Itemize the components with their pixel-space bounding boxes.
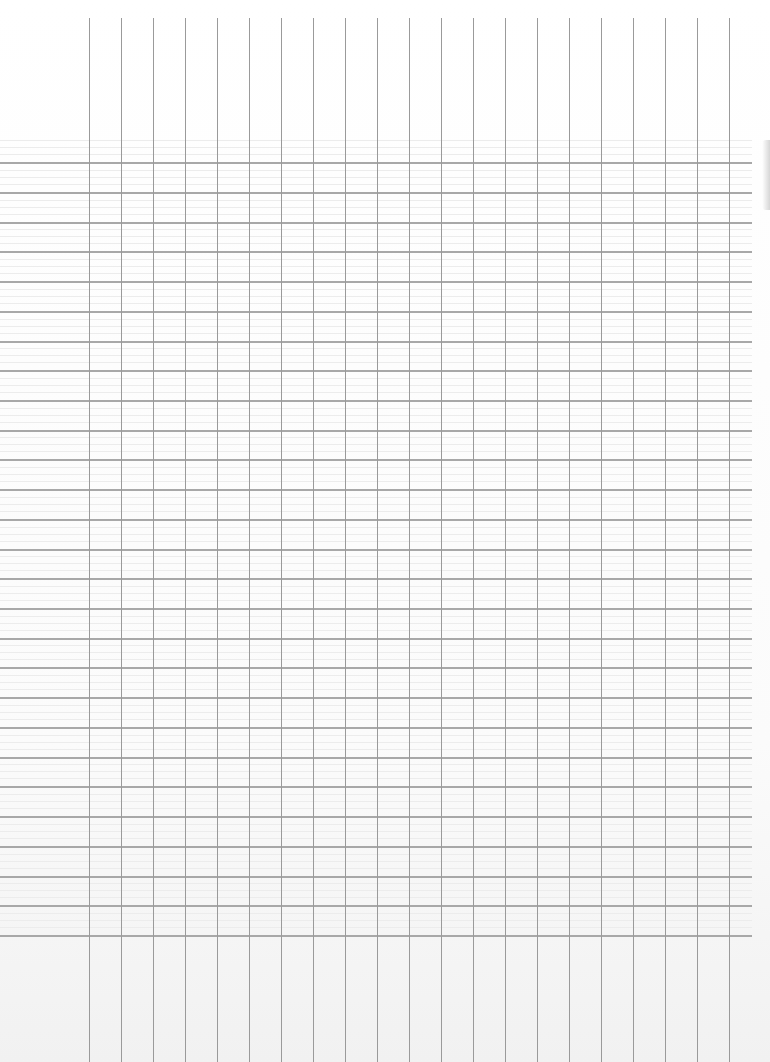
column-rule: [345, 18, 346, 1062]
faint-rule: [0, 319, 752, 320]
row-rule: [0, 846, 752, 848]
faint-rule: [0, 563, 752, 564]
row-rule: [0, 341, 752, 343]
faint-rule: [0, 705, 752, 706]
faint-rule: [0, 207, 752, 208]
column-rule: [313, 18, 314, 1062]
faint-rule: [0, 593, 752, 594]
faint-rule: [0, 556, 752, 557]
faint-rule: [0, 481, 752, 482]
row-rule: [0, 162, 752, 164]
faint-rule: [0, 289, 752, 290]
ledger-sheet: [0, 0, 770, 1062]
faint-rule: [0, 177, 752, 178]
row-rule: [0, 667, 752, 669]
faint-rule: [0, 794, 752, 795]
faint-rule: [0, 170, 752, 171]
faint-rule: [0, 243, 752, 244]
faint-rule: [0, 362, 752, 363]
faint-rule: [0, 200, 752, 201]
column-rule: [505, 18, 506, 1062]
column-rule: [633, 18, 634, 1062]
ledger-grid: [0, 0, 770, 1062]
faint-rule: [0, 630, 752, 631]
faint-rule: [0, 854, 752, 855]
faint-rule: [0, 541, 752, 542]
faint-rule: [0, 415, 752, 416]
row-rule: [0, 608, 752, 610]
column-rule: [537, 18, 538, 1062]
faint-rule: [0, 444, 752, 445]
row-rule: [0, 549, 752, 551]
faint-rule: [0, 266, 752, 267]
faint-rule: [0, 920, 752, 921]
faint-rule: [0, 824, 752, 825]
faint-rule: [0, 735, 752, 736]
faint-rule: [0, 451, 752, 452]
faint-rule: [0, 675, 752, 676]
faint-rule: [0, 474, 752, 475]
faint-rule: [0, 437, 752, 438]
faint-rule: [0, 868, 752, 869]
row-rule: [0, 430, 752, 432]
faint-rule: [0, 778, 752, 779]
faint-rule: [0, 497, 752, 498]
faint-rule: [0, 511, 752, 512]
faint-rule: [0, 408, 752, 409]
column-rule: [217, 18, 218, 1062]
row-rule: [0, 281, 752, 283]
faint-rule: [0, 147, 752, 148]
faint-rule: [0, 623, 752, 624]
column-rule: [473, 18, 474, 1062]
row-rule: [0, 757, 752, 759]
faint-rule: [0, 659, 752, 660]
faint-rule: [0, 348, 752, 349]
faint-rule: [0, 927, 752, 928]
faint-rule: [0, 392, 752, 393]
column-rule: [729, 18, 730, 1062]
faint-rule: [0, 831, 752, 832]
faint-rule: [0, 296, 752, 297]
faint-rule: [0, 355, 752, 356]
column-rule: [153, 18, 154, 1062]
row-rule: [0, 251, 752, 253]
column-rule: [121, 18, 122, 1062]
row-rule: [0, 786, 752, 788]
faint-rule: [0, 385, 752, 386]
row-rule: [0, 697, 752, 699]
faint-rule: [0, 378, 752, 379]
faint-rule: [0, 682, 752, 683]
faint-rule: [0, 883, 752, 884]
row-rule: [0, 905, 752, 907]
faint-rule: [0, 771, 752, 772]
faint-rule: [0, 712, 752, 713]
row-rule: [0, 519, 752, 521]
faint-rule: [0, 467, 752, 468]
column-rule: [249, 18, 250, 1062]
faint-rule: [0, 600, 752, 601]
faint-rule: [0, 742, 752, 743]
faint-rule: [0, 333, 752, 334]
faint-rule: [0, 236, 752, 237]
faint-rule: [0, 861, 752, 862]
row-rule: [0, 459, 752, 461]
row-rule: [0, 489, 752, 491]
faint-rule: [0, 913, 752, 914]
column-rule: [441, 18, 442, 1062]
faint-rule: [0, 808, 752, 809]
row-rule: [0, 400, 752, 402]
faint-rule: [0, 570, 752, 571]
faint-rule: [0, 154, 752, 155]
faint-rule: [0, 273, 752, 274]
faint-rule: [0, 801, 752, 802]
column-rule: [281, 18, 282, 1062]
row-rule: [0, 727, 752, 729]
row-rule: [0, 311, 752, 313]
column-rule: [409, 18, 410, 1062]
column-rule: [697, 18, 698, 1062]
column-rule: [569, 18, 570, 1062]
faint-rule: [0, 616, 752, 617]
column-rule: [601, 18, 602, 1062]
faint-rule: [0, 652, 752, 653]
column-rule: [377, 18, 378, 1062]
